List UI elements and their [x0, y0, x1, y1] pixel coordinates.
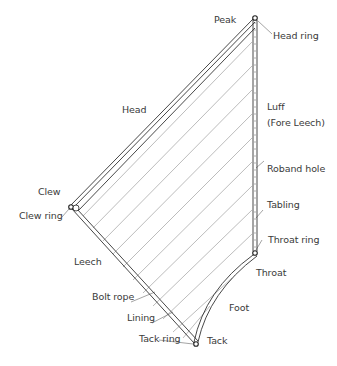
- label-clew: Clew: [38, 187, 61, 197]
- label-head-ring: Head ring: [273, 31, 319, 41]
- label-roband-hole: Roband hole: [267, 164, 325, 174]
- label-throat: Throat: [256, 268, 286, 278]
- label-tack-ring: Tack ring: [139, 334, 181, 344]
- label-foot: Foot: [229, 303, 249, 313]
- label-tack: Tack: [207, 336, 227, 346]
- label-bolt-rope: Bolt rope: [92, 292, 134, 302]
- tack-ring-icon: [194, 342, 199, 347]
- label-peak: Peak: [214, 15, 236, 25]
- foot-edge: [194, 255, 257, 342]
- head-ring-icon: [253, 16, 258, 21]
- throat-ring-icon: [253, 251, 258, 256]
- label-clew-ring: Clew ring: [19, 211, 63, 221]
- label-leech: Leech: [74, 257, 102, 267]
- label-fore-leech: (Fore Leech): [267, 118, 325, 128]
- label-tabling: Tabling: [267, 200, 300, 210]
- label-throat-ring: Throat ring: [268, 235, 319, 245]
- label-luff: Luff: [267, 102, 284, 112]
- label-head: Head: [122, 105, 146, 115]
- luff-edge: [253, 20, 257, 251]
- clew-ring-icon: [69, 205, 74, 210]
- label-lining: Lining: [127, 313, 155, 323]
- sail-diagram: Peak Head ring Head Luff (Fore Leech) Ro…: [0, 0, 337, 366]
- sail-drawing: [0, 0, 337, 366]
